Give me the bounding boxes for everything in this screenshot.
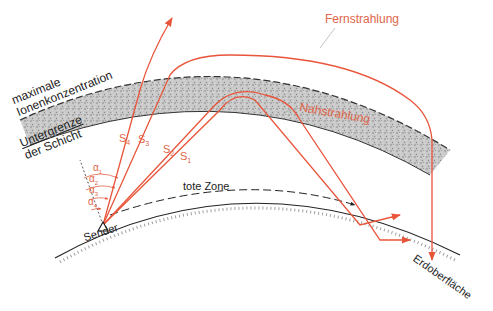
ray-label-s4: S4 bbox=[119, 132, 130, 146]
label-fernstrahlung: Fernstrahlung bbox=[325, 12, 399, 26]
ray-label-s3: S3 bbox=[138, 133, 149, 147]
ray-label-s1: S1 bbox=[180, 150, 191, 164]
ray-s4 bbox=[103, 18, 172, 225]
dead-zone-arrow bbox=[110, 190, 355, 215]
angle-label-a4: α4 bbox=[88, 196, 97, 209]
ray-label-s2: S2 bbox=[163, 143, 174, 157]
label-tote-zone: tote Zone bbox=[183, 180, 229, 192]
